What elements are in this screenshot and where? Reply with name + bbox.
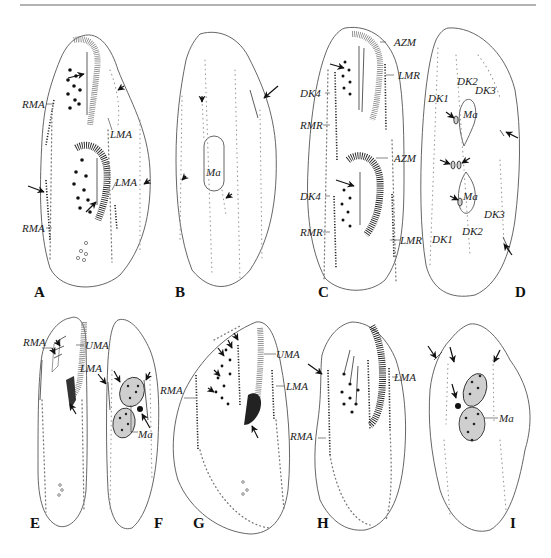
label-dk2: DK2 xyxy=(461,225,483,237)
cell-outline xyxy=(308,27,404,290)
arrow-head-icon xyxy=(450,196,458,200)
panel-d: DK2 DK3 DK1 Ma Ma DK3 DK2 DK1 D xyxy=(421,28,526,300)
arrow-icon xyxy=(428,346,436,358)
panel-h: LMA RMA H xyxy=(289,322,416,531)
cell-outline xyxy=(173,322,289,534)
panel-label-d: D xyxy=(515,284,526,300)
arrow-head-icon xyxy=(228,340,232,348)
arrow-icon xyxy=(450,347,454,362)
frontal-cirri-group xyxy=(215,349,232,406)
panel-c: AZM LMR DK4 RMR AZM DK4 RMR LMR C xyxy=(299,27,422,300)
panel-g: UMA RMA LMA G xyxy=(159,322,308,534)
macronucleus xyxy=(111,406,138,439)
label-dk4: DK4 xyxy=(299,190,321,202)
macronucleus xyxy=(116,374,149,410)
label-lma: LMA xyxy=(79,362,102,374)
label-lma: LMA xyxy=(109,128,132,140)
arrow-head-icon xyxy=(440,160,450,164)
label-ma: Ma xyxy=(498,412,514,424)
arrow-head-icon xyxy=(214,370,220,376)
panel-label-h: H xyxy=(317,515,329,531)
arrow-icon xyxy=(504,244,512,255)
label-ma: Ma xyxy=(462,108,478,120)
label-rma: RMA xyxy=(289,430,313,442)
label-dk3: DK3 xyxy=(483,208,505,220)
arrow-head-icon xyxy=(182,176,186,180)
arrow-icon xyxy=(142,414,150,428)
label-rmr: RMR xyxy=(299,226,323,238)
cell-outline xyxy=(421,28,520,296)
frontal-cirri-group xyxy=(66,68,92,214)
label-lma: LMA xyxy=(393,371,416,383)
cell-outline xyxy=(315,322,406,530)
arrow-icon xyxy=(146,372,150,380)
panel-label-c: C xyxy=(318,284,329,300)
arrow-icon xyxy=(264,86,278,98)
panel-f: LMA Ma F xyxy=(79,319,163,531)
panel-label-f: F xyxy=(154,515,163,531)
arrow-head-icon xyxy=(208,388,214,392)
arrow-icon xyxy=(494,350,500,362)
panel-i: Ma I xyxy=(428,324,530,531)
macronucleus xyxy=(459,370,491,409)
arrow-head-icon xyxy=(234,333,238,340)
panel-label-b: B xyxy=(175,284,185,300)
arrow-head-icon xyxy=(226,194,232,198)
panel-label-g: G xyxy=(193,515,205,531)
label-lmr: LMR xyxy=(397,69,420,81)
panel-label-a: A xyxy=(34,284,45,300)
panel-b: Ma B xyxy=(175,32,278,300)
cell-outline xyxy=(40,35,150,287)
label-uma: UMA xyxy=(276,348,300,360)
label-dk4: DK4 xyxy=(299,87,321,99)
arrow-icon xyxy=(330,64,344,68)
label-rma: RMA xyxy=(159,384,183,396)
label-dk1: DK1 xyxy=(427,92,449,104)
frontal-cirri-group xyxy=(341,61,352,228)
cell-outline xyxy=(38,317,87,526)
label-rmr: RMR xyxy=(299,119,323,131)
panel-label-i: I xyxy=(510,515,516,531)
label-ma: Ma xyxy=(205,166,221,178)
arrow-icon xyxy=(308,364,322,374)
arrow-head-icon xyxy=(218,348,224,356)
arrow-icon xyxy=(452,384,456,398)
macronucleus xyxy=(459,99,476,146)
arrow-icon xyxy=(114,371,120,382)
label-rma: RMA xyxy=(22,336,46,348)
label-azm: AZM xyxy=(393,152,417,164)
macronucleus xyxy=(204,136,224,191)
arrow-icon xyxy=(28,186,44,192)
arrow-icon xyxy=(70,404,76,414)
label-dk3: DK3 xyxy=(474,84,496,96)
panel-a: RMA LMA LMA RMA A xyxy=(21,35,150,300)
arrow-icon xyxy=(336,180,354,186)
macronucleus xyxy=(459,407,485,441)
label-lmr: LMR xyxy=(399,234,422,246)
arrow-icon xyxy=(86,202,96,212)
label-azm: AZM xyxy=(393,36,417,48)
label-lma: LMA xyxy=(285,380,308,392)
arrow-icon xyxy=(252,426,258,438)
arrow-icon xyxy=(98,374,106,384)
cell-outline xyxy=(176,32,276,286)
arrow-icon xyxy=(506,132,518,138)
label-ma: Ma xyxy=(137,428,153,440)
label-rma: RMA xyxy=(21,222,45,234)
label-lma: LMA xyxy=(114,176,137,188)
label-ma: Ma xyxy=(462,190,478,202)
figure-plate: RMA LMA LMA RMA A Ma B xyxy=(0,0,551,558)
label-uma: UMA xyxy=(85,339,109,351)
label-dk1: DK1 xyxy=(431,233,453,245)
label-rma: RMA xyxy=(21,98,45,110)
panel-e: RMA UMA E xyxy=(22,317,109,531)
arrow-head-icon xyxy=(118,86,124,90)
panel-label-e: E xyxy=(30,515,40,531)
arrow-head-icon xyxy=(144,180,150,184)
arrow-head-icon xyxy=(446,112,454,118)
